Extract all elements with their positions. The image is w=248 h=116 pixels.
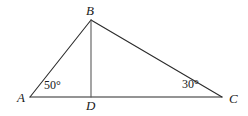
- vertex-label-d: D: [86, 99, 95, 112]
- vertex-label-c: C: [229, 92, 238, 105]
- segment-BC-line: [91, 20, 222, 97]
- vertex-label-a: A: [17, 91, 25, 104]
- geometry-figure: A B C D 50° 30°: [0, 0, 248, 116]
- angle-label-at-c: 30°: [182, 78, 199, 90]
- vertex-label-b: B: [86, 4, 94, 17]
- geometry-canvas: [0, 0, 248, 116]
- angle-label-at-a: 50°: [44, 79, 61, 91]
